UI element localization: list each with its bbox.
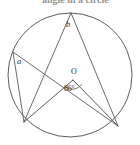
main-circle: [8, 13, 132, 137]
circle-geometry-figure: angle in a circle b a O 86°: [0, 0, 140, 145]
label-central-angle: 86°: [64, 85, 75, 93]
label-vertex-b: b: [66, 20, 70, 29]
label-circle-center: O: [71, 68, 77, 76]
segment-top-to-bottom-left: [24, 13, 71, 122]
label-vertex-a: a: [17, 57, 21, 66]
